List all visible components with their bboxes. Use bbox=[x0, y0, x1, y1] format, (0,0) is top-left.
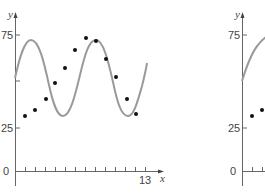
y-tick-label-0: 0 bbox=[230, 165, 236, 177]
y-tick-label-0: 0 bbox=[3, 165, 9, 177]
data-point bbox=[114, 75, 118, 79]
data-point bbox=[260, 108, 264, 112]
model-curve bbox=[242, 37, 265, 81]
x-ticks bbox=[253, 167, 263, 172]
y-axis-label: y bbox=[234, 8, 240, 20]
y-tick-label-75: 75 bbox=[228, 29, 240, 41]
data-point bbox=[33, 108, 37, 112]
data-point bbox=[23, 114, 27, 118]
chart-canvas: y 75 25 0 x 13 bbox=[0, 0, 265, 193]
y-tick-label-25: 25 bbox=[1, 122, 13, 134]
y-axis-label: y bbox=[7, 8, 13, 20]
data-point bbox=[104, 57, 108, 61]
data-points bbox=[250, 108, 264, 118]
x-tick-label-13: 13 bbox=[139, 174, 151, 186]
data-point bbox=[134, 112, 138, 116]
data-point bbox=[73, 48, 77, 52]
data-point bbox=[63, 66, 67, 70]
panel-2: y 75 25 0 bbox=[228, 8, 265, 186]
data-point bbox=[84, 36, 88, 40]
data-point bbox=[250, 114, 254, 118]
data-point bbox=[94, 39, 98, 43]
y-axis-arrow-icon bbox=[241, 12, 245, 18]
y-tick-label-25: 25 bbox=[228, 122, 240, 134]
sinusoid-curve bbox=[15, 40, 147, 116]
data-point bbox=[125, 97, 129, 101]
y-tick-label-75: 75 bbox=[1, 29, 13, 41]
x-ticks bbox=[26, 167, 146, 172]
x-axis-label: x bbox=[159, 172, 165, 184]
data-point bbox=[44, 97, 48, 101]
data-point bbox=[53, 81, 57, 85]
panel-1: y 75 25 0 x 13 bbox=[1, 8, 165, 186]
y-axis-arrow-icon bbox=[14, 12, 18, 18]
